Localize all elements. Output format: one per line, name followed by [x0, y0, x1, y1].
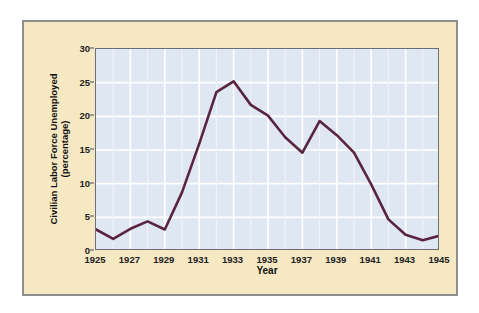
- y-tick-25: 25: [50, 76, 90, 87]
- x-tick-1945: 1945: [419, 254, 459, 265]
- y-tick-20: 20: [50, 110, 90, 121]
- y-tickmark-10: [90, 182, 94, 183]
- y-tickmark-20: [90, 115, 94, 116]
- y-tick-10: 10: [50, 177, 90, 188]
- data-line-series: [96, 49, 439, 250]
- y-tick-30: 30: [50, 43, 90, 54]
- y-tickmark-15: [90, 149, 94, 150]
- y-tickmark-5: [90, 216, 94, 217]
- plot-area: [95, 48, 439, 250]
- y-tick-5: 5: [50, 211, 90, 222]
- plot-wrapper: 051015202530 192519271929193119331935193…: [95, 48, 439, 250]
- y-tick-15: 15: [50, 144, 90, 155]
- y-tickmark-30: [90, 48, 94, 49]
- chart-figure-panel: Civilian Labor Force Unemployed (percent…: [22, 20, 458, 296]
- x-axis-title: Year: [95, 265, 439, 276]
- y-tickmark-25: [90, 81, 94, 82]
- y-tickmark-0: [90, 250, 94, 251]
